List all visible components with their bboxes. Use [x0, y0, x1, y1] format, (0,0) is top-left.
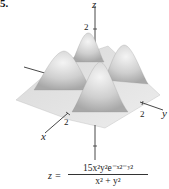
formula-lhs: z = [48, 170, 61, 181]
y-tick-label: 2 [140, 109, 145, 119]
surface-plot: z 2 x 2 y 2 [0, 0, 169, 189]
z-axis-label: z [91, 0, 97, 10]
formula-denominator: x² + y² [68, 176, 148, 186]
z-tick-label: 2 [84, 22, 89, 32]
x-tick-label: 2 [64, 117, 69, 127]
peak-back [72, 33, 104, 62]
formula-fraction: 15x²y²e⁻ˣ²⁻ʸ² x² + y² [68, 162, 148, 186]
fraction-bar [68, 174, 148, 175]
formula-numerator: 15x²y²e⁻ˣ²⁻ʸ² [68, 162, 148, 173]
x-axis-label: x [40, 130, 46, 142]
y-axis-label: y [161, 107, 167, 119]
